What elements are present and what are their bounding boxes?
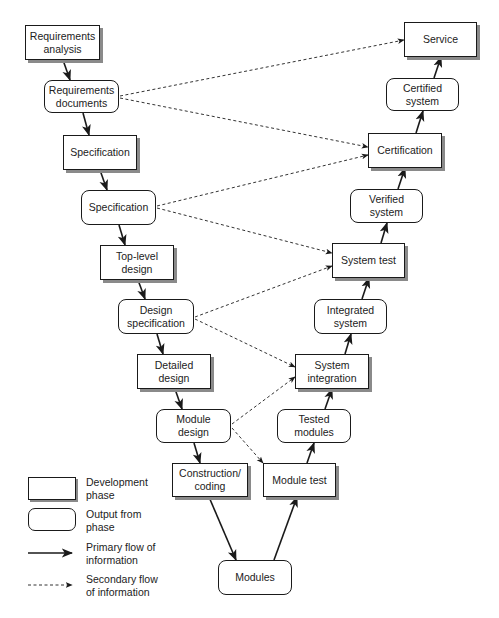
secondary-flow-arrow: [120, 98, 368, 147]
primary-flow-arrow: [138, 280, 145, 299]
node-verified-system: Verified system: [350, 189, 423, 223]
node-specification-output: Specification: [81, 190, 156, 225]
primary-flow-arrow: [434, 57, 441, 78]
node-requirements-documents: Requirements documents: [44, 80, 119, 113]
node-system-integration: System integration: [295, 354, 369, 389]
primary-flow-arrow: [307, 443, 314, 463]
node-integrated-system: Integrated system: [314, 299, 387, 334]
legend-output-swatch: [28, 508, 76, 531]
primary-flow-arrow: [119, 225, 125, 245]
legend-phase-swatch: [28, 477, 76, 500]
primary-flow-arrow: [194, 443, 200, 463]
primary-flow-arrow: [83, 113, 89, 135]
node-certification: Certification: [368, 133, 442, 168]
primary-flow-arrow: [325, 389, 332, 409]
node-service: Service: [404, 22, 477, 57]
node-construction-coding: Construction/ coding: [172, 463, 248, 497]
node-detailed-design: Detailed design: [137, 354, 211, 389]
primary-flow-arrow: [209, 497, 236, 560]
secondary-flow-arrow: [120, 40, 404, 96]
legend-output-label: Output from phase: [86, 508, 156, 534]
primary-flow-arrow: [362, 278, 369, 299]
primary-flow-arrow: [175, 389, 182, 409]
node-module-design: Module design: [156, 409, 231, 443]
secondary-flow-arrow: [157, 208, 332, 253]
primary-flow-arrow: [381, 223, 387, 243]
node-design-specification: Design specification: [118, 299, 194, 334]
node-system-test: System test: [332, 243, 405, 278]
node-modules: Modules: [218, 560, 292, 595]
secondary-flow-arrow: [157, 155, 368, 206]
legend-secondary-label: Secondary flow of information: [86, 573, 166, 599]
primary-flow-arrow: [157, 334, 163, 354]
legend-primary-label: Primary flow of information: [86, 541, 166, 567]
primary-flow-arrow: [274, 497, 297, 560]
node-top-level-design: Top-level design: [100, 245, 174, 280]
primary-flow-arrow: [398, 168, 405, 189]
secondary-flow-arrow: [232, 428, 263, 463]
primary-flow-arrow: [63, 60, 70, 80]
primary-flow-arrow: [100, 170, 107, 190]
node-specification-phase: Specification: [63, 135, 137, 170]
legend-phase-label: Development phase: [86, 476, 156, 502]
node-module-test: Module test: [263, 463, 336, 497]
primary-flow-arrow: [416, 111, 423, 133]
primary-flow-arrow: [345, 334, 351, 354]
secondary-flow-arrow: [195, 266, 332, 317]
node-certified-system: Certified system: [386, 78, 459, 111]
node-tested-modules: Tested modules: [277, 409, 351, 443]
node-requirements-analysis: Requirements analysis: [25, 25, 100, 60]
